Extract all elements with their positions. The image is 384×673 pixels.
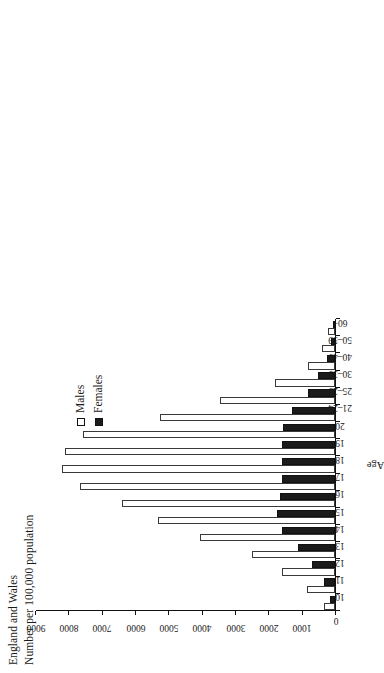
bar-males-14 <box>200 534 335 541</box>
bar-males-2124 <box>160 414 335 421</box>
value-tick-label: 6000 <box>126 623 145 633</box>
bar-males-5059 <box>322 345 335 352</box>
bar-females-60+ <box>333 321 335 328</box>
bar-males-4049 <box>308 362 335 369</box>
bar-females-11 <box>324 578 335 585</box>
figure-title-block: England and Wales Number per 100,000 pop… <box>6 515 37 665</box>
bar-females-12 <box>312 561 335 568</box>
value-tick-label: 4000 <box>193 623 212 633</box>
value-tick-label: 3000 <box>226 623 245 633</box>
bar-group <box>35 388 335 405</box>
bar-females-13 <box>298 544 335 551</box>
category-tick-label: 15 <box>335 513 345 517</box>
value-tick: 1000 <box>302 611 303 615</box>
bar-group <box>35 508 335 525</box>
plot-area: 0100020003000400050006000700080009000 10… <box>36 319 336 611</box>
bar-females-2124 <box>292 407 335 414</box>
bar-males-20 <box>83 431 335 438</box>
category-tick-label: 10 <box>335 598 345 602</box>
bar-males-3039 <box>275 380 335 387</box>
value-tick: 6000 <box>135 611 136 615</box>
category-tick <box>336 610 340 611</box>
category-tick-label: 12 <box>335 564 345 568</box>
bar-males-12 <box>282 568 335 575</box>
bar-group <box>35 319 335 336</box>
bar-group <box>35 422 335 439</box>
bar-females-5059 <box>331 338 335 345</box>
category-tick-label: 19 <box>335 444 345 448</box>
bar-females-15 <box>277 510 335 517</box>
bar-females-18 <box>282 458 335 465</box>
value-tick: 4000 <box>202 611 203 615</box>
category-tick-label: 18 <box>335 461 345 465</box>
bar-males-2529 <box>220 397 335 404</box>
value-tick: 8000 <box>68 611 69 615</box>
value-tick-label: 2000 <box>259 623 278 633</box>
bar-group <box>35 577 335 594</box>
bar-females-2529 <box>308 389 335 396</box>
bar-females-17 <box>282 475 335 482</box>
bar-females-16 <box>280 493 335 500</box>
bar-group <box>35 474 335 491</box>
bar-females-14 <box>282 527 335 534</box>
bar-females-4049 <box>327 355 335 362</box>
bar-group <box>35 525 335 542</box>
bar-group <box>35 439 335 456</box>
bar-group <box>35 491 335 508</box>
bar-group <box>35 405 335 422</box>
category-tick-label: 20 <box>335 427 345 431</box>
bar-males-11 <box>307 586 335 593</box>
bar-group <box>35 456 335 473</box>
category-tick-label: 16 <box>335 495 345 499</box>
bar-males-13 <box>252 551 335 558</box>
value-tick-label: 0 <box>333 615 338 625</box>
bar-group <box>35 594 335 611</box>
value-tick: 2000 <box>268 611 269 615</box>
category-tick-label: 14 <box>335 530 345 534</box>
bar-males-18 <box>62 465 335 472</box>
bar-group <box>35 559 335 576</box>
bar-group <box>35 336 335 353</box>
bar-group <box>35 542 335 559</box>
bar-males-15 <box>158 517 335 524</box>
value-tick: 5000 <box>168 611 169 615</box>
bar-males-60+ <box>328 328 335 335</box>
bar-males-16 <box>122 500 335 507</box>
bar-males-19 <box>65 448 335 455</box>
bar-females-10 <box>330 596 335 603</box>
category-tick-label: 11 <box>335 581 344 585</box>
value-tick-label: 1000 <box>293 623 312 633</box>
category-tick-label: 17 <box>335 478 345 482</box>
bar-females-19 <box>282 441 335 448</box>
value-tick-label: 8000 <box>59 623 78 633</box>
bar-females-3039 <box>318 372 335 379</box>
value-tick: 3000 <box>235 611 236 615</box>
bar-group <box>35 353 335 370</box>
value-tick-label: 7000 <box>93 623 112 633</box>
value-tick: 7000 <box>102 611 103 615</box>
category-tick-label: 13 <box>335 547 345 551</box>
bar-males-17 <box>80 483 335 490</box>
bar-females-20 <box>283 424 335 431</box>
figure-title-line-1: England and Wales <box>6 515 22 665</box>
bar-males-10 <box>324 603 335 610</box>
category-axis-title: Age <box>367 460 384 471</box>
bar-group <box>35 371 335 388</box>
value-tick: 0 <box>335 611 336 615</box>
value-tick: 9000 <box>35 611 36 615</box>
value-tick-label: 9000 <box>26 623 45 633</box>
value-tick-label: 5000 <box>159 623 178 633</box>
